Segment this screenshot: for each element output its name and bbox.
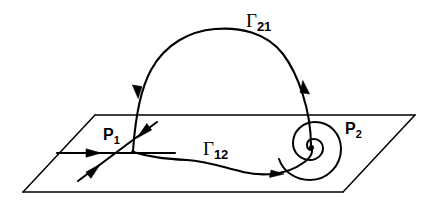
arrow-manifold-horizontal-icon (86, 149, 101, 157)
arrow-gamma21-right-icon (300, 81, 310, 95)
gamma12-label: Γ12 (203, 139, 228, 161)
p2-symbol: P (345, 120, 356, 137)
p1-center-dot (131, 150, 134, 153)
gamma12-symbol: Γ (203, 138, 214, 159)
p2-label: P2 (345, 121, 362, 140)
p1-label: P1 (103, 127, 120, 146)
arrow-manifold-diagonal-upper-icon (137, 124, 152, 138)
gamma21-symbol: Γ (246, 10, 257, 31)
gamma12-subscript: 12 (214, 147, 228, 162)
p1-subscript: 1 (114, 134, 120, 146)
p2-center-dot (309, 145, 314, 150)
trajectory-gamma21 (132, 29, 311, 151)
gamma21-subscript: 21 (257, 19, 271, 34)
arrow-gamma12-icon (270, 170, 285, 178)
diagram-canvas (0, 0, 438, 207)
gamma21-label: Γ21 (246, 11, 271, 33)
gamma21-path (133, 29, 311, 151)
arrow-manifold-diagonal-lower-icon (86, 164, 101, 178)
p1-symbol: P (103, 126, 114, 143)
phase-portrait-figure: Γ21 Γ12 P1 P2 (0, 0, 438, 207)
p2-subscript: 2 (356, 128, 362, 140)
